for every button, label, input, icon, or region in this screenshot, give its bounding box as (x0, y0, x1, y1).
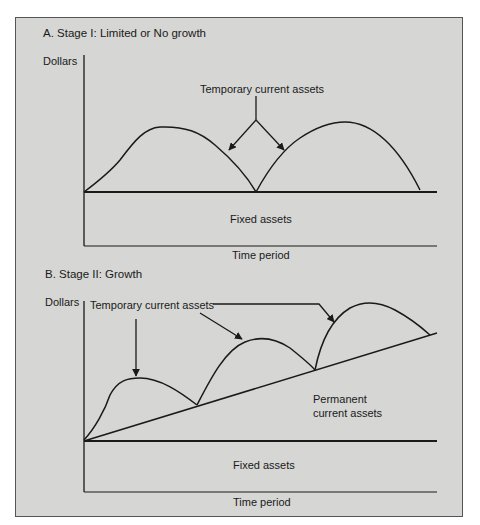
section-a-curve-1 (84, 127, 256, 192)
section-a-title: A. Stage I: Limited or No growth (43, 28, 206, 40)
permanent-label-line2: current assets (313, 408, 382, 419)
section-b-fixed-assets-label: Fixed assets (233, 460, 295, 471)
section-b-y-axis-label: Dollars (45, 297, 79, 308)
section-b-curve-3 (315, 303, 430, 370)
section-a-x-axis-label: Time period (232, 250, 290, 261)
permanent-label-line1: Permanent (313, 394, 367, 405)
section-b-curve-2 (197, 339, 315, 405)
section-a-fixed-assets-label: Fixed assets (230, 214, 292, 225)
section-a-y-axis-label: Dollars (43, 56, 77, 67)
section-b-x-axis-label: Time period (233, 497, 291, 508)
section-b-title: B. Stage II: Growth (45, 269, 142, 281)
section-a-curve-2 (256, 122, 420, 192)
section-b-annotation: Temporary current assets (90, 300, 214, 311)
section-a-annotation: Temporary current assets (200, 84, 324, 95)
diagram-lines (0, 0, 480, 525)
section-b-curve-1 (84, 378, 197, 440)
